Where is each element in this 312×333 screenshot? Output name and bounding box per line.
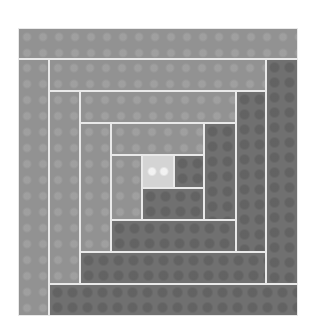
round1-bottom — [142, 188, 204, 220]
round2-left — [80, 123, 111, 252]
round1-left — [111, 155, 142, 220]
round3-bottom — [80, 252, 266, 284]
round1-right — [174, 155, 204, 188]
round3-top — [49, 59, 266, 91]
round1-top — [111, 123, 204, 155]
round4-left — [18, 59, 49, 316]
round3-left — [49, 91, 80, 284]
round4-bottom — [49, 284, 298, 316]
round4-right — [266, 59, 298, 284]
round3-right — [236, 91, 266, 252]
round4-top — [18, 28, 298, 59]
round2-bottom — [111, 220, 236, 252]
round2-right — [204, 123, 236, 220]
round2-top — [80, 91, 236, 123]
center-square — [142, 155, 174, 188]
log-cabin-quilt-block — [0, 0, 312, 333]
